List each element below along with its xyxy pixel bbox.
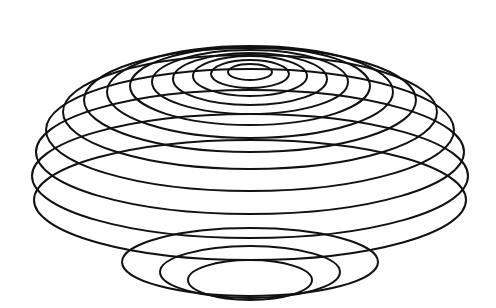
paraboloid-wireframe-svg (0, 0, 496, 308)
paraboloid-figure: Line drawing of a bowl-shaped paraboloid… (0, 0, 496, 308)
